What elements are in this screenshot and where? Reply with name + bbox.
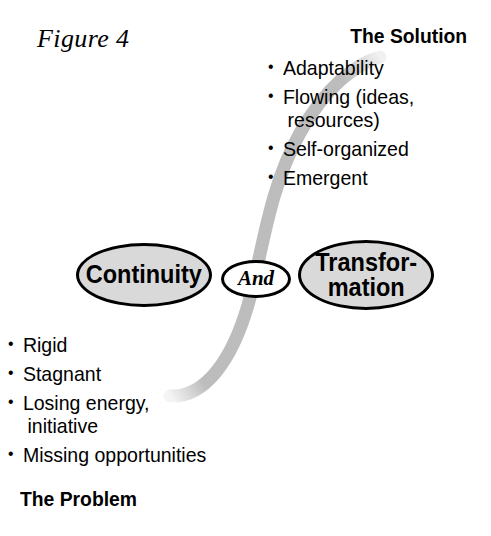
node-transformation-label: Transfor- mation	[315, 250, 417, 300]
problem-bullet-list: Rigid Stagnant Losing energy, initiative…	[8, 333, 221, 472]
solution-heading: The Solution	[350, 24, 467, 48]
solution-bullet-list: Adaptability Flowing (ideas, resources) …	[268, 56, 425, 195]
list-item: Missing opportunities	[8, 443, 206, 466]
node-and-connector[interactable]: And	[221, 260, 291, 298]
node-continuity[interactable]: Continuity	[76, 243, 212, 307]
node-transformation-line2: mation	[327, 273, 404, 301]
figure-canvas: Figure 4 The Solution Adaptability Flowi…	[0, 0, 491, 536]
problem-heading: The Problem	[20, 487, 137, 511]
node-and-label: And	[238, 268, 274, 289]
list-item: Rigid	[8, 333, 206, 356]
list-item: Adaptability	[268, 56, 414, 79]
bullet-text: Flowing (ideas,	[283, 85, 414, 108]
bullet-text: Missing opportunities	[23, 443, 206, 466]
bullet-text: Stagnant	[23, 362, 101, 385]
bullet-text: Emergent	[283, 166, 368, 189]
node-transformation[interactable]: Transfor- mation	[298, 240, 434, 310]
bullet-text-continuation: initiative	[23, 414, 206, 437]
list-item: Self-organized	[268, 137, 414, 160]
list-item: Losing energy, initiative	[8, 391, 206, 437]
bullet-text: Adaptability	[283, 56, 384, 79]
bullet-text: Rigid	[23, 333, 68, 356]
bullet-text: Losing energy,	[23, 391, 150, 414]
list-item: Flowing (ideas, resources)	[268, 85, 414, 131]
bullet-text: Self-organized	[283, 137, 409, 160]
node-transformation-line1: Transfor-	[315, 248, 417, 276]
list-item: Stagnant	[8, 362, 206, 385]
list-item: Emergent	[268, 166, 414, 189]
figure-label: Figure 4	[37, 24, 130, 54]
node-continuity-label: Continuity	[86, 262, 202, 288]
bullet-text-continuation: resources)	[283, 108, 414, 131]
